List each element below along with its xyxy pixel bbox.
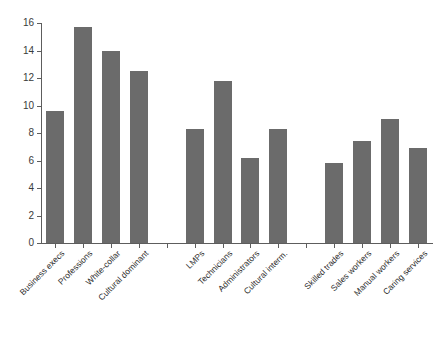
bar	[214, 81, 232, 243]
x-axis-tick	[250, 243, 251, 248]
x-axis-tick	[278, 243, 279, 248]
x-axis-tick	[306, 243, 307, 248]
y-axis-tick	[37, 243, 41, 244]
x-axis-tick	[334, 243, 335, 248]
y-axis-tick-label: 4	[28, 183, 34, 193]
bar	[325, 163, 343, 243]
x-axis-tick	[418, 243, 419, 248]
y-axis-tick-label: 0	[28, 238, 34, 248]
bar	[130, 71, 148, 243]
x-axis-tick	[390, 243, 391, 248]
y-axis-tick	[37, 188, 41, 189]
y-axis-tick	[37, 106, 41, 107]
x-axis-tick	[55, 243, 56, 248]
x-axis-category-label: LMPs	[184, 249, 205, 270]
y-axis-tick	[37, 78, 41, 79]
y-axis-tick-label: 6	[28, 156, 34, 166]
y-axis-tick-label: 16	[23, 18, 34, 28]
y-axis-tick-label: 2	[28, 211, 34, 221]
x-axis-line	[41, 243, 433, 244]
bar	[102, 51, 120, 244]
y-axis-tick	[37, 216, 41, 217]
y-axis-tick	[37, 51, 41, 52]
y-axis-tick-label: 12	[23, 73, 34, 83]
x-axis-tick	[167, 243, 168, 248]
x-axis-tick	[83, 243, 84, 248]
y-axis-tick	[37, 23, 41, 24]
bar	[46, 111, 64, 243]
x-axis-tick	[362, 243, 363, 248]
x-axis-category-label-text: LMPs	[184, 249, 205, 270]
bar-chart: 0246810121416 Business execsProfessionsW…	[0, 0, 443, 337]
x-axis-category-label: Cultural dominant	[97, 249, 150, 302]
plot-area: 0246810121416	[41, 23, 432, 243]
bar	[74, 27, 92, 243]
bar	[269, 129, 287, 243]
bar	[186, 129, 204, 243]
y-axis-tick-label: 10	[23, 101, 34, 111]
x-axis-category-label-text: Cultural dominant	[97, 249, 150, 302]
y-axis-tick	[37, 161, 41, 162]
x-axis-tick	[139, 243, 140, 248]
bar	[353, 141, 371, 243]
x-axis-tick	[223, 243, 224, 248]
bar	[409, 148, 427, 243]
y-axis-tick-label: 8	[28, 128, 34, 138]
x-axis-tick	[111, 243, 112, 248]
x-axis-tick	[195, 243, 196, 248]
bar	[241, 158, 259, 243]
x-axis-category-label: Business execs	[18, 249, 66, 297]
y-axis-tick-label: 14	[23, 46, 34, 56]
bar	[381, 119, 399, 243]
x-axis-category-label-text: Business execs	[18, 249, 66, 297]
y-axis-tick	[37, 133, 41, 134]
